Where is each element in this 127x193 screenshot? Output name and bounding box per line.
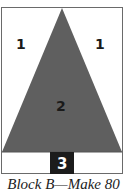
label-trunk: 3 (57, 155, 67, 173)
label-right-background: 1 (95, 36, 105, 52)
label-tree-triangle: 2 (56, 98, 66, 114)
label-left-background: 1 (16, 36, 26, 52)
block-caption: Block B—Make 80 (0, 176, 127, 193)
tree-triangle (2, 8, 122, 152)
